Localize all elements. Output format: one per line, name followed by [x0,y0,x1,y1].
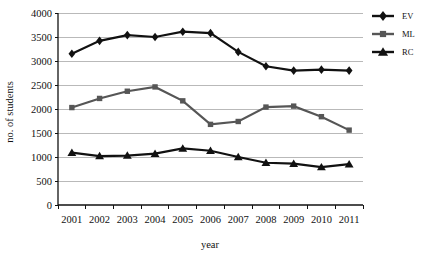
series-ev [69,27,353,74]
y-axis-tick-label: 2500 [31,80,52,91]
x-axis-tick-label: 2009 [283,214,304,225]
data-point-marker-diamond [179,27,186,36]
data-point-marker-square [125,89,130,94]
data-point-marker-square [208,122,213,127]
data-point-marker-diamond [124,31,131,40]
legend-item-ev[interactable]: EV [372,11,414,21]
chart-canvas: 05001000150020002500300035004000 2001200… [0,0,431,260]
y-axis-tick-label: 1000 [31,152,52,163]
data-point-marker-square [69,105,74,110]
y-axis-tick-label: 500 [36,176,52,187]
legend-item-ml[interactable]: ML [372,29,415,39]
data-point-marker-diamond [69,50,76,59]
data-point-marker-square [97,96,102,101]
line-chart-figure: 05001000150020002500300035004000 2001200… [0,0,431,260]
data-point-marker-square [319,114,324,119]
series-line-ev [72,32,349,71]
y-axis-tick-label: 0 [47,200,52,211]
legend-label-ml: ML [402,29,415,39]
data-point-marker-diamond [318,65,325,74]
data-point-marker-square [291,103,296,108]
data-series-group [67,27,353,170]
x-axis-tick-label: 2001 [61,214,82,225]
y-axis-tick-label: 1500 [31,128,52,139]
data-point-marker-diamond [263,62,270,71]
x-axis-tick-label: 2002 [89,214,110,225]
chart-legend: EVMLRC [372,11,415,57]
data-point-marker-square [236,119,241,124]
x-axis-tick-label: 2008 [255,214,276,225]
x-axis-tick-label: 2007 [228,214,249,225]
y-axis-tick-labels: 05001000150020002500300035004000 [31,8,52,211]
y-axis-tick-label: 3000 [31,56,52,67]
data-point-marker-square [346,127,351,132]
data-point-marker-diamond [290,66,297,75]
x-axis-tick-label: 2004 [145,214,167,225]
x-axis-tick-label: 2005 [172,214,193,225]
y-axis-tick-label: 2000 [31,104,52,115]
legend-item-rc[interactable]: RC [372,47,414,57]
x-axis-tick-label: 2003 [117,214,138,225]
x-axis-title: year [201,239,220,250]
data-point-marker-square [380,31,386,37]
data-point-marker-diamond [346,66,353,75]
x-axis-tick-label: 2006 [200,214,221,225]
data-point-marker-diamond [152,33,159,42]
data-point-marker-diamond [379,11,387,21]
x-axis-tick-label: 2010 [311,214,332,225]
data-point-marker-diamond [235,48,242,57]
data-point-marker-square [263,104,268,109]
legend-label-rc: RC [402,47,414,57]
x-axis-tick-label: 2011 [339,214,360,225]
legend-label-ev: EV [402,11,414,21]
series-ml [69,84,352,133]
y-axis-title: no. of students [4,81,15,143]
y-axis-tick-label: 4000 [31,8,52,19]
x-axis-tick-labels: 2001200220032004200520062007200820092010… [61,214,359,225]
data-point-marker-diamond [207,29,214,38]
y-axis-tick-label: 3500 [31,32,52,43]
data-point-marker-square [152,84,157,89]
data-point-marker-diamond [96,37,103,46]
data-point-marker-square [180,98,185,103]
